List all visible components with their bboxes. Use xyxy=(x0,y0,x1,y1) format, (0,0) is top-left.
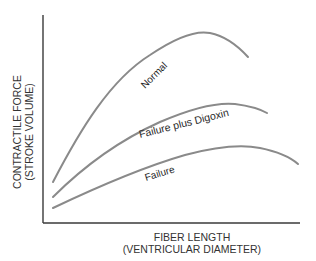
y-axis-label: CONTRACTILE FORCE (STROKE VOLUME) xyxy=(11,75,35,189)
label-failure-plus-digoxin: Failure plus Digoxin xyxy=(138,106,231,140)
y-axis-label-line2: (STROKE VOLUME) xyxy=(23,83,35,180)
y-axis-label-line1: CONTRACTILE FORCE xyxy=(11,75,23,189)
x-axis-label-line1: FIBER LENGTH xyxy=(154,231,230,243)
label-normal: Normal xyxy=(139,60,170,91)
x-axis-label: FIBER LENGTH (VENTRICULAR DIAMETER) xyxy=(123,231,261,255)
curve-failure-plus-digoxin xyxy=(53,104,267,197)
x-axis-label-line2: (VENTRICULAR DIAMETER) xyxy=(123,243,261,255)
curve-failure xyxy=(53,146,298,208)
chart-canvas: Normal Failure plus Digoxin Failure CONT… xyxy=(0,0,316,261)
